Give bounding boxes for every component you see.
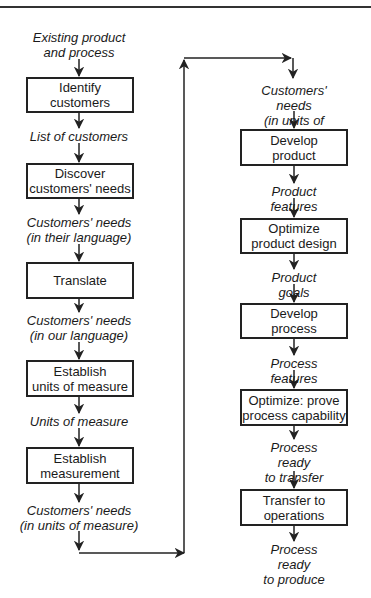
step-establish-units: Establish units of measure xyxy=(26,360,134,397)
step-optimize-prove-capability: Optimize: prove process capability xyxy=(240,389,348,426)
step-transfer-operations: Transfer to operations xyxy=(240,489,348,526)
output-process-ready-transfer: Process ready to transfer xyxy=(256,440,333,485)
step-identify-customers: Identify customers xyxy=(26,77,134,113)
step-optimize-product-design: Optimize product design xyxy=(240,218,348,254)
output-needs-our-language: Customers' needs (in our language) xyxy=(27,313,131,343)
step-establish-measurement: Establish measurement xyxy=(26,447,134,484)
output-units-of-measure: Units of measure xyxy=(30,414,128,429)
start-label-left: Existing product and process xyxy=(33,30,126,60)
step-develop-product: Develop product xyxy=(240,129,348,166)
output-needs-units-left: Customers' needs (in units of measure) xyxy=(20,503,139,533)
output-process-ready-produce: Process ready to produce xyxy=(256,542,333,587)
flowchart: Existing product and process Identify cu… xyxy=(0,0,371,598)
output-product-features: Product features xyxy=(256,184,333,214)
output-product-goals: Product goals xyxy=(256,270,333,300)
output-list-of-customers: List of customers xyxy=(30,129,128,144)
step-translate: Translate xyxy=(26,262,134,299)
step-discover-needs: Discover customers' needs xyxy=(26,163,134,199)
output-process-features: Process features xyxy=(256,356,333,386)
step-develop-process: Develop process xyxy=(240,303,348,339)
output-needs-their-language: Customers' needs (in their language) xyxy=(27,215,132,245)
